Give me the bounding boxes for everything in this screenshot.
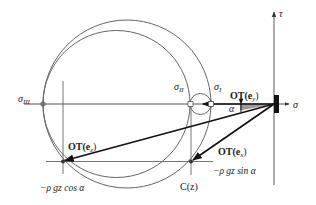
sigma-II-label: σII — [174, 81, 184, 94]
sigma-III-label: σIII — [18, 93, 31, 106]
sigma-III-point — [41, 102, 46, 107]
ot-ey-label: OT(ey) — [230, 90, 259, 103]
mohr-diagram: τ σ σIII σII σI OT(ey) OT(ez) OT(ex) α −… — [0, 0, 316, 205]
sigma-I-point — [209, 102, 214, 107]
sigma-I-label: σI — [214, 81, 222, 94]
point-ex — [189, 160, 193, 164]
sin-component-label: −ρ gz sin α — [213, 166, 257, 176]
tau-label: τ — [279, 8, 283, 19]
alpha-label: α — [229, 103, 235, 114]
ot-ex-label: OT(ex) — [218, 146, 247, 159]
cos-component-label: −ρ gz cos α — [40, 183, 85, 193]
ot-ez-label: OT(ez) — [68, 141, 96, 154]
origin-block — [274, 95, 279, 113]
sigma-II-point — [188, 102, 193, 107]
sigma-label: σ — [293, 99, 299, 110]
point-ez — [61, 160, 65, 164]
center-label: C(z) — [180, 181, 198, 193]
